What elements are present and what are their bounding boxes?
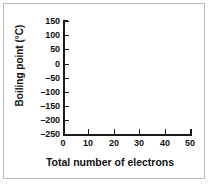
x-tick-mark xyxy=(139,129,140,134)
x-tick-label: 50 xyxy=(178,138,202,149)
y-tick-label-text: –100 xyxy=(26,88,60,97)
x-axis-title: Total number of electrons xyxy=(20,156,200,168)
x-tick-label-text: 40 xyxy=(153,138,177,149)
y-tick-label-text: 0 xyxy=(26,60,60,69)
x-tick-mark xyxy=(114,129,115,134)
x-tick-mark xyxy=(63,129,64,134)
x-tick-label: 40 xyxy=(153,138,177,149)
x-tick-mark xyxy=(165,129,166,134)
x-tick-label-text: 20 xyxy=(102,138,126,149)
plot-area xyxy=(63,21,191,135)
y-tick-label: –200 xyxy=(22,116,60,125)
x-tick-label: 30 xyxy=(127,138,151,149)
y-tick-label: –50 xyxy=(22,74,60,83)
x-tick-label-text: 50 xyxy=(178,138,202,149)
y-tick-label: 150 xyxy=(22,17,60,26)
y-tick-label-text: –50 xyxy=(26,74,60,83)
x-tick-mark xyxy=(190,129,191,134)
x-tick-label-text: 0 xyxy=(51,138,75,149)
y-tick-label: 0 xyxy=(22,60,60,69)
y-tick-label-text: 50 xyxy=(26,45,60,54)
x-tick-label: 20 xyxy=(102,138,126,149)
x-tick-label: 0 xyxy=(51,138,75,149)
y-tick-label-text: –150 xyxy=(26,102,60,111)
y-tick-label: 100 xyxy=(22,31,60,40)
x-axis-line xyxy=(63,134,192,136)
y-tick-label-text: 150 xyxy=(26,17,60,26)
x-tick-mark xyxy=(88,129,89,134)
y-tick-label: 50 xyxy=(22,45,60,54)
x-tick-label-text: 10 xyxy=(76,138,100,149)
y-tick-label: –150 xyxy=(22,102,60,111)
y-tick-label: –100 xyxy=(22,88,60,97)
chart-figure: Boiling point (°C) 150 100 50 0 –50 –100… xyxy=(0,0,213,185)
y-tick-label-text: 100 xyxy=(26,31,60,40)
x-tick-label-text: 30 xyxy=(127,138,151,149)
y-tick-label-text: –200 xyxy=(26,116,60,125)
x-tick-label: 10 xyxy=(76,138,100,149)
